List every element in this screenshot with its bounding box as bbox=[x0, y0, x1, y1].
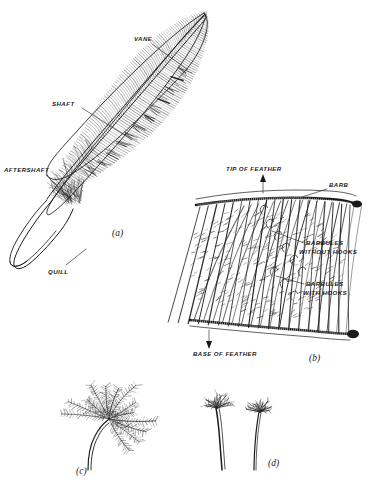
panel-label-a: (a) bbox=[112, 228, 123, 239]
label-barbules-with-hooks-line2: WITH HOOKS bbox=[303, 289, 347, 296]
label-barbules-with-hooks-line1: BARBULES bbox=[306, 280, 343, 287]
label-aftershaft: AFTERSHAFT bbox=[3, 166, 50, 173]
upper-barb-node bbox=[352, 200, 362, 207]
label-barbules-without-hooks-line1: BARBULES bbox=[306, 239, 343, 246]
feather-structure-plate: VANE SHAFT AFTERSHAFT QUILL TIP OF FEATH… bbox=[0, 0, 370, 487]
label-vane: VANE bbox=[134, 35, 153, 42]
label-shaft: SHAFT bbox=[52, 100, 75, 107]
label-tip-of-feather: TIP OF FEATHER bbox=[226, 165, 282, 172]
panel-label-d: (d) bbox=[268, 458, 279, 469]
label-quill: QUILL bbox=[48, 268, 69, 275]
label-barbules-without-hooks-line2: WITHOUT HOOKS bbox=[299, 248, 357, 255]
label-barb: BARB bbox=[329, 181, 349, 188]
panel-label-c: (c) bbox=[76, 466, 87, 477]
label-base-of-feather: BASE OF FEATHER bbox=[193, 350, 257, 357]
panel-label-b: (b) bbox=[309, 353, 320, 364]
